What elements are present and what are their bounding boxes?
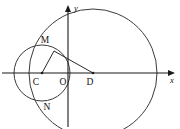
y-axis-arrowhead [65, 5, 71, 12]
x-axis-label: x [169, 75, 174, 85]
point-label-n: N [44, 102, 51, 112]
y-axis-label: y [73, 3, 78, 13]
point-label-o: O [60, 77, 67, 87]
center-dot-d [92, 72, 95, 75]
center-dot-c [41, 72, 44, 75]
point-label-c: C [33, 77, 39, 87]
geometry-figure-svg: M C O D N x y [0, 0, 180, 129]
geometry-figure-canvas: M C O D N x y [0, 0, 180, 129]
point-label-m: M [41, 35, 50, 45]
segment-md [54, 51, 93, 73]
segment-cm [42, 51, 54, 73]
point-label-d: D [87, 77, 94, 87]
